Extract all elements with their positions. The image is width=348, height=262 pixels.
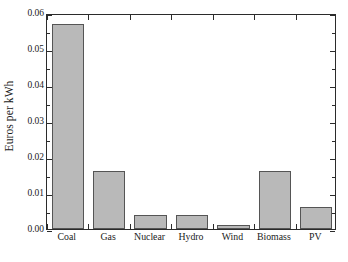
y-axis-tick-minor-right <box>332 213 335 214</box>
x-axis-tick-top <box>47 15 48 20</box>
x-axis-tick-labels: CoalGasNuclearHydroWindBiomassPV <box>46 232 336 250</box>
y-axis-tick-minor <box>47 141 50 142</box>
y-axis-tick-minor-right <box>332 33 335 34</box>
y-axis-tick-minor <box>47 177 50 178</box>
y-axis-tick-major-right <box>330 15 335 16</box>
bar-coal <box>52 24 84 229</box>
y-axis-tick-label: 0.02 <box>27 153 44 163</box>
x-axis-tick <box>47 224 48 229</box>
bar-chart-figure: Euros per kWh 0.000.010.020.030.040.050.… <box>0 0 348 262</box>
y-axis-tick-label: 0.03 <box>27 117 44 127</box>
x-axis-tick <box>130 224 131 229</box>
bar-hydro <box>176 215 208 229</box>
x-axis-tick-label-hydro: Hydro <box>178 232 203 242</box>
y-axis-tick-major-right <box>330 195 335 196</box>
y-axis-tick-major-right <box>330 51 335 52</box>
y-axis-tick-major-right <box>330 123 335 124</box>
bar-nuclear <box>134 215 166 229</box>
x-axis-tick-label-wind: Wind <box>222 232 243 242</box>
y-axis-tick-minor <box>47 105 50 106</box>
y-axis-tick-minor-right <box>332 141 335 142</box>
bar-pv <box>300 207 332 229</box>
y-axis-tick-major-right <box>330 159 335 160</box>
plot-area <box>46 14 336 230</box>
x-axis-tick-top <box>171 15 172 20</box>
x-axis-tick <box>296 224 297 229</box>
x-axis-tick-top <box>130 15 131 20</box>
y-axis-tick-minor <box>47 213 50 214</box>
x-axis-tick-top <box>88 15 89 20</box>
y-axis-title-text: Euros per kWh <box>3 81 15 152</box>
x-axis-tick-label-biomass: Biomass <box>257 232 291 242</box>
x-axis-tick <box>171 224 172 229</box>
x-axis-tick-top <box>254 15 255 20</box>
y-axis-tick-label: 0.06 <box>27 9 44 19</box>
y-axis-tick-minor-right <box>332 177 335 178</box>
x-axis-tick-label-gas: Gas <box>101 232 116 242</box>
y-axis-tick-minor <box>47 33 50 34</box>
y-axis-tick-minor <box>47 69 50 70</box>
x-axis-tick <box>254 224 255 229</box>
bar-gas <box>93 171 125 229</box>
x-axis-tick-label-nuclear: Nuclear <box>134 232 165 242</box>
y-axis-tick-labels: 0.000.010.020.030.040.050.06 <box>16 14 44 230</box>
x-axis-tick-top <box>296 15 297 20</box>
y-axis-tick-minor-right <box>332 69 335 70</box>
y-axis-tick-major-right <box>330 87 335 88</box>
y-axis-tick-label: 0.00 <box>27 225 44 235</box>
x-axis-tick <box>213 224 214 229</box>
y-axis-tick-minor-right <box>332 105 335 106</box>
x-axis-tick-label-pv: PV <box>309 232 322 242</box>
y-axis-tick-label: 0.05 <box>27 45 44 55</box>
x-axis-tick-top <box>213 15 214 20</box>
y-axis-tick-label: 0.01 <box>27 189 44 199</box>
y-axis-tick-label: 0.04 <box>27 81 44 91</box>
bar-wind <box>217 225 249 229</box>
x-axis-tick-label-coal: Coal <box>57 232 76 242</box>
x-axis-tick <box>88 224 89 229</box>
bar-biomass <box>259 171 291 229</box>
